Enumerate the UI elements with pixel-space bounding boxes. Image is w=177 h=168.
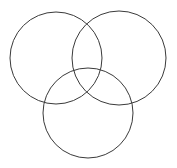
venn-diagram-figure bbox=[0, 0, 177, 168]
venn-diagram-canvas bbox=[0, 0, 177, 168]
